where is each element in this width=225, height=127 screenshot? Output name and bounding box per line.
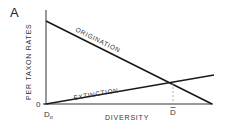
y-axis-label: PER TAXON RATES [25, 23, 32, 100]
y-origin-label: 0 [36, 100, 41, 109]
panel-label: A [10, 5, 19, 20]
equilibrium-diversity-label: D [170, 108, 176, 117]
origination-line [46, 21, 212, 104]
extinction-line [46, 75, 214, 104]
extinction-label: EXTINCTION [73, 86, 119, 101]
x-origin-label: Do [44, 110, 53, 120]
x-origin-subscript: o [50, 114, 53, 120]
origination-label: ORIGINATION [75, 26, 122, 54]
diversity-equilibrium-diagram: A PER TAXON RATES ORIGINATION EXTINCTION… [0, 0, 225, 127]
x-axis-label: DIVERSITY [105, 114, 149, 121]
